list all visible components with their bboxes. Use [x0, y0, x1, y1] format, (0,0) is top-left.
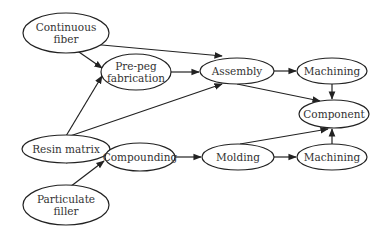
node-label: Machining	[304, 65, 361, 77]
node-label: Component	[303, 108, 365, 120]
node-assembly: Assembly	[200, 58, 274, 84]
node-label: filler	[54, 205, 80, 217]
nodes: ContinuousfiberPre-pegfabricationAssembl…	[22, 13, 369, 225]
node-label: Machining	[304, 151, 361, 163]
arrow-assembly-to-component	[237, 84, 320, 101]
node-continuous-fiber: Continuousfiber	[23, 13, 109, 53]
node-label: Particulate	[37, 193, 95, 205]
node-label: Molding	[216, 151, 260, 163]
node-label: Continuous	[36, 21, 97, 33]
node-label: Assembly	[211, 65, 263, 77]
node-particulate-filler: Particulatefiller	[23, 185, 109, 225]
node-molding: Molding	[202, 144, 274, 170]
node-component: Component	[299, 100, 369, 128]
node-label: Pre-peg	[115, 60, 157, 72]
node-prepeg: Pre-pegfabrication	[101, 54, 171, 90]
node-label: Compounding	[103, 151, 178, 163]
node-label: fiber	[54, 33, 80, 45]
node-label: fabrication	[107, 72, 165, 84]
node-resin-matrix: Resin matrix	[22, 135, 110, 163]
node-label: Resin matrix	[32, 143, 100, 155]
node-compounding: Compounding	[103, 143, 178, 171]
process-flow-diagram: ContinuousfiberPre-pegfabricationAssembl…	[0, 0, 386, 231]
node-machining-bottom: Machining	[297, 144, 367, 170]
arrow-molding-to-component	[240, 129, 328, 144]
node-machining-top: Machining	[297, 58, 367, 84]
